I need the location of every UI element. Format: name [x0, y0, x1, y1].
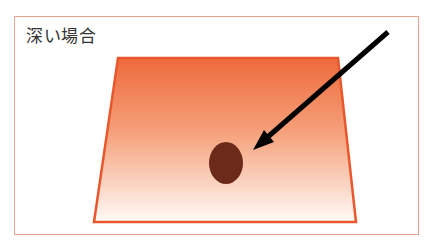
diagram-canvas: [0, 0, 429, 241]
trapezoid-plane: [94, 58, 356, 222]
spot-ellipse: [209, 142, 243, 184]
